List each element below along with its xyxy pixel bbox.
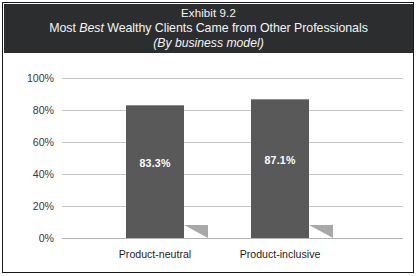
bar: 83.3% — [126, 105, 184, 238]
category-label: Product-inclusive — [240, 248, 321, 260]
y-axis-tick-label: 60% — [8, 136, 54, 148]
exhibit-chart-figure: Exhibit 9.2 Most Best Wealthy Clients Ca… — [0, 0, 417, 276]
bar: 87.1% — [251, 99, 309, 238]
category-label: Product-neutral — [119, 248, 191, 260]
exhibit-number: Exhibit 9.2 — [181, 6, 236, 20]
gridline — [62, 174, 403, 175]
chart-title-part-2: Wealthy Clients Came from Other Professi… — [104, 21, 368, 35]
gridline — [62, 142, 403, 143]
bar-value-label: 87.1% — [251, 154, 309, 166]
y-axis-tick-label: 100% — [8, 72, 54, 84]
chart-subtitle: (By business model) — [153, 36, 263, 51]
chart-title-part-1: Most — [49, 21, 79, 35]
bar-shadow — [309, 225, 333, 238]
chart-title-emphasis: Best — [79, 21, 104, 35]
bar-shadow — [184, 225, 208, 238]
y-axis-tick-label: 20% — [8, 200, 54, 212]
plot-area: 0%20%40%60%80%100% 83.3%87.1% Product-ne… — [4, 53, 413, 271]
bar-top-highlight — [251, 99, 309, 100]
axis-baseline — [62, 238, 403, 239]
chart-title: Most Best Wealthy Clients Came from Othe… — [49, 21, 368, 36]
y-axis-tick-label: 80% — [8, 104, 54, 116]
gridline — [62, 110, 403, 111]
gridline — [62, 206, 403, 207]
title-band: Exhibit 9.2 Most Best Wealthy Clients Ca… — [4, 4, 413, 53]
y-axis-tick-label: 40% — [8, 168, 54, 180]
y-axis-tick-label: 0% — [8, 232, 54, 244]
gridline — [62, 78, 403, 79]
bar-value-label: 83.3% — [126, 157, 184, 169]
bar-top-highlight — [126, 105, 184, 106]
